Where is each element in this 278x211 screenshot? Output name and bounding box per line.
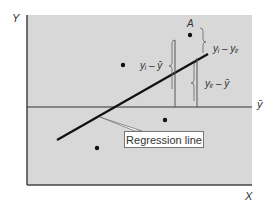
point-a-label: A	[187, 18, 194, 29]
total-deviation-label: yᵢ – ȳ	[140, 60, 162, 71]
x-axis-label: X	[245, 190, 252, 202]
residual-label: yᵢ – yᵢᵣ	[213, 43, 239, 54]
data-point-A	[188, 33, 192, 37]
mean-label: ȳ	[257, 98, 263, 110]
data-point	[163, 118, 167, 122]
regression-line-callout: Regression line	[124, 131, 204, 148]
data-point	[95, 146, 99, 150]
data-point	[121, 63, 125, 67]
regression-diagram	[0, 0, 278, 211]
plot-area	[27, 15, 252, 185]
explained-deviation-label: yᵢᵣ – ȳ	[205, 78, 229, 89]
y-axis-label: Y	[12, 12, 19, 24]
